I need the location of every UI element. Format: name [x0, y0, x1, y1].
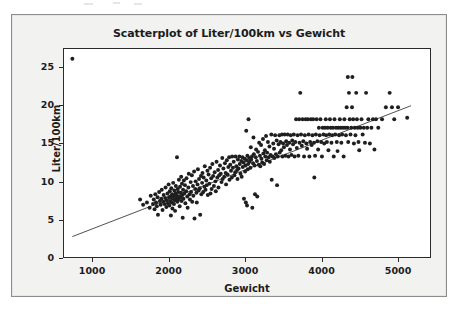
data-point [328, 117, 332, 121]
data-point [368, 142, 372, 146]
data-point [248, 166, 252, 170]
data-point [348, 117, 352, 121]
data-point [155, 204, 159, 208]
data-point [261, 137, 265, 141]
data-point [279, 148, 283, 152]
y-tick-label: 5 [30, 214, 54, 225]
data-point [354, 91, 358, 95]
data-point [318, 117, 322, 121]
data-point [247, 117, 251, 121]
data-point [202, 176, 206, 180]
y-tick-label: 10 [30, 176, 54, 187]
data-point [342, 117, 346, 121]
data-point [351, 117, 355, 121]
data-point [195, 201, 199, 205]
x-tick-mark [245, 258, 246, 262]
data-point [298, 91, 302, 95]
data-point [191, 194, 195, 198]
data-point [315, 139, 319, 143]
fit-line [72, 106, 411, 237]
data-point [220, 156, 224, 160]
data-point [329, 141, 333, 145]
data-point [264, 134, 268, 138]
x-axis-title: Gewicht [63, 283, 431, 294]
data-point [262, 162, 266, 166]
data-point [272, 156, 276, 160]
data-point [156, 213, 160, 217]
x-tick-label: 4000 [302, 265, 342, 276]
data-point [145, 201, 149, 205]
data-point [214, 189, 218, 193]
data-point [304, 142, 308, 146]
data-point [307, 154, 311, 158]
y-tick-mark [59, 258, 63, 259]
data-point [346, 75, 350, 79]
data-point [154, 201, 158, 205]
data-point [348, 132, 352, 136]
data-point [231, 166, 235, 170]
data-point [205, 169, 209, 173]
data-point [207, 182, 211, 186]
data-point [186, 185, 190, 189]
data-point [228, 163, 232, 167]
data-point [303, 133, 307, 137]
data-point [219, 172, 223, 176]
data-point [178, 204, 182, 208]
data-point [208, 166, 212, 170]
data-points [70, 57, 409, 221]
data-point [196, 167, 200, 171]
data-point [305, 147, 309, 151]
data-point [324, 117, 328, 121]
data-point [347, 91, 351, 95]
figure-page: Scatterplot of Liter/100km vs Gewicht Li… [0, 0, 457, 310]
data-point [183, 201, 187, 205]
data-point [156, 195, 160, 199]
data-point [181, 216, 185, 220]
data-point [179, 175, 183, 179]
data-point [307, 132, 311, 136]
data-point [345, 105, 349, 109]
data-point [210, 162, 214, 166]
data-point [159, 203, 163, 207]
data-point [160, 188, 164, 192]
data-point [356, 140, 360, 144]
fit-line-segment [72, 106, 411, 237]
data-point [169, 213, 173, 217]
data-point [345, 126, 349, 130]
data-point [357, 148, 361, 152]
data-point [242, 197, 246, 201]
data-point [312, 176, 316, 180]
data-point [237, 167, 241, 171]
data-point [360, 117, 364, 121]
data-point [392, 117, 396, 121]
data-point [271, 142, 275, 146]
data-point [216, 185, 220, 189]
data-point [332, 154, 336, 158]
data-point [240, 175, 244, 179]
data-point [164, 185, 168, 189]
data-point [299, 132, 303, 136]
data-point [259, 157, 263, 161]
data-point [200, 171, 204, 175]
data-point [256, 150, 260, 154]
data-point [349, 126, 353, 130]
data-point [181, 197, 185, 201]
data-point [273, 133, 277, 137]
data-point [333, 117, 337, 121]
y-tick-label: 0 [30, 252, 54, 263]
data-point [266, 140, 270, 144]
data-point [296, 154, 300, 158]
data-point [253, 163, 257, 167]
x-tick-mark [92, 258, 93, 262]
data-point [213, 179, 217, 183]
data-point [265, 151, 269, 155]
x-tick-label: 2000 [149, 265, 189, 276]
data-point [272, 147, 276, 151]
data-point [186, 206, 190, 210]
x-tick-mark [322, 258, 323, 262]
data-point [215, 160, 219, 164]
data-point [318, 133, 322, 137]
data-point [311, 117, 315, 121]
data-point [189, 190, 193, 194]
data-point [333, 132, 337, 136]
